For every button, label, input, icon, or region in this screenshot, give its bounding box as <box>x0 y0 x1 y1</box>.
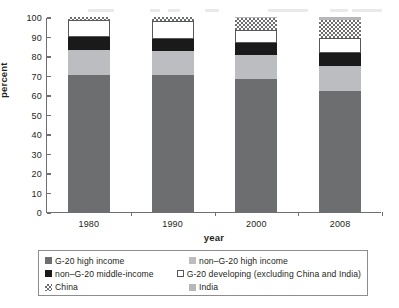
bar-segment-white <box>319 38 361 54</box>
bar-segment-white <box>68 20 110 37</box>
y-axis-tick: 100 <box>26 13 47 23</box>
bar-segment-dark <box>319 91 361 212</box>
legend-item[interactable]: non–G-20 high income <box>189 256 288 266</box>
y-axis-tick: 40 <box>32 130 47 140</box>
bar-segment-dark <box>152 75 194 212</box>
bar-2008[interactable] <box>319 17 361 212</box>
bar-segment-black <box>319 53 361 66</box>
legend-label: India <box>199 282 218 292</box>
y-axis-tick: 20 <box>32 169 47 179</box>
bar-segment-dark <box>68 75 110 212</box>
legend-row: G-20 high incomenon–G-20 high income <box>45 254 361 267</box>
bar-segment-check <box>319 20 361 38</box>
x-axis-tickmark <box>215 212 216 216</box>
legend-row: non–G-20 middle-incomeG-20 developing (e… <box>45 267 361 280</box>
cropped-caption-strip <box>0 0 399 12</box>
legend-swatch-white-icon <box>177 270 184 277</box>
legend-swatch-black-icon <box>45 270 52 277</box>
legend-item[interactable]: G-20 developing (excluding China and Ind… <box>177 269 361 279</box>
bar-segment-check <box>235 18 277 30</box>
bar-segment-dark <box>235 79 277 212</box>
legend-item[interactable]: India <box>189 282 218 292</box>
bar-1980[interactable] <box>68 17 110 212</box>
y-axis-tick: 70 <box>32 72 47 82</box>
bar-segment-light <box>235 55 277 79</box>
bar-segment-light <box>152 51 194 74</box>
legend-label: G-20 developing (excluding China and Ind… <box>187 269 361 279</box>
bar-segment-white <box>152 21 194 40</box>
legend-row: ChinaIndia <box>45 281 361 294</box>
y-axis-tick: 80 <box>32 52 47 62</box>
legend-item[interactable]: non–G-20 middle-income <box>45 269 177 279</box>
bar-1990[interactable] <box>152 17 194 212</box>
legend-swatch-check-icon <box>45 284 52 291</box>
legend-swatch-dark-icon <box>45 257 52 264</box>
bar-segment-light <box>68 50 110 74</box>
legend-label: non–G-20 middle-income <box>55 269 154 279</box>
legend-swatch-light-icon <box>189 257 196 264</box>
bar-2000[interactable] <box>235 17 277 212</box>
x-axis-tick-1980: 1980 <box>78 219 99 229</box>
y-axis-tick: 60 <box>32 91 47 101</box>
y-axis-tick: 10 <box>32 189 47 199</box>
stacked-bar-chart: percent 0102030405060708090100 198019902… <box>0 12 399 244</box>
x-axis-tick-1990: 1990 <box>162 219 183 229</box>
x-axis-tickmark <box>298 212 299 216</box>
legend-label: non–G-20 high income <box>199 256 288 266</box>
legend-swatch-india-icon <box>189 284 196 291</box>
y-axis-tick: 0 <box>37 208 47 218</box>
y-axis-label: percent <box>0 62 9 98</box>
y-axis-tick: 90 <box>32 33 47 43</box>
y-axis-tick: 50 <box>32 111 47 121</box>
y-axis-tick: 30 <box>32 150 47 160</box>
legend-item[interactable]: G-20 high income <box>45 256 189 266</box>
x-axis-tickmark <box>131 212 132 216</box>
x-axis-tick-2008: 2008 <box>330 219 351 229</box>
bar-segment-light <box>319 66 361 91</box>
bar-segment-black <box>68 37 110 51</box>
legend-label: China <box>55 282 78 292</box>
x-axis-label: year <box>47 232 381 243</box>
bar-segment-black <box>152 39 194 51</box>
bar-segment-black <box>235 43 277 55</box>
bar-segment-white <box>235 30 277 44</box>
x-axis-tick-2000: 2000 <box>246 219 267 229</box>
legend-label: G-20 high income <box>55 256 124 266</box>
x-axis-tickmark <box>382 212 383 216</box>
plot-area: 0102030405060708090100 1980199020002008 … <box>46 18 381 213</box>
chart-legend: G-20 high incomenon–G-20 high incomenon–… <box>38 250 368 296</box>
legend-item[interactable]: China <box>45 282 189 292</box>
